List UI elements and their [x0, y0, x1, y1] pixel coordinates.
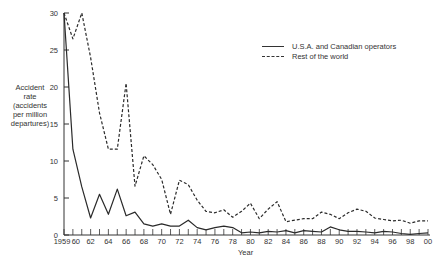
x-tick-label: 92 — [353, 237, 361, 246]
y-tick-label: 10 — [50, 157, 58, 166]
legend-item-usa-canada: U.S.A. and Canadian operators — [262, 41, 396, 51]
x-tick-label: 00 — [424, 237, 432, 246]
y-tick-label: 25 — [50, 46, 58, 55]
y-label-line: per million — [2, 110, 58, 119]
x-tick-label: 62 — [86, 237, 94, 246]
x-tick-label: 64 — [104, 237, 112, 246]
y-label-line: (accidents — [2, 101, 58, 110]
x-axis-label: Year — [238, 248, 253, 257]
legend-item-rest-of-world: Rest of the world — [262, 51, 396, 61]
x-tick-label: 72 — [175, 237, 183, 246]
x-tick-label: 68 — [140, 237, 148, 246]
x-tick-label: 78 — [229, 237, 237, 246]
x-tick-label: 76 — [211, 237, 219, 246]
line-chart: 0510152025301959606264666870727476788082… — [0, 0, 442, 266]
legend-label: Rest of the world — [292, 52, 348, 61]
x-tick-label: 70 — [157, 237, 165, 246]
y-label-line: Accident — [2, 83, 58, 92]
x-tick-label: 96 — [388, 237, 396, 246]
x-tick-label: 1959 — [54, 237, 71, 246]
y-label-line: rate — [2, 92, 58, 101]
y-axis-label: Accident rate (accidents per million dep… — [2, 83, 58, 128]
y-tick-label: 30 — [50, 9, 58, 18]
x-tick-label: 90 — [335, 237, 343, 246]
y-label-line: departures) — [2, 119, 58, 128]
x-tick-label: 86 — [300, 237, 308, 246]
x-tick-label: 80 — [246, 237, 254, 246]
x-tick-label: 94 — [371, 237, 379, 246]
solid-line-swatch-icon — [262, 46, 284, 47]
legend-label: U.S.A. and Canadian operators — [292, 42, 396, 51]
x-tick-label: 98 — [406, 237, 414, 246]
x-tick-label: 82 — [264, 237, 272, 246]
y-tick-label: 5 — [54, 194, 58, 203]
legend: U.S.A. and Canadian operators Rest of th… — [262, 41, 396, 61]
x-tick-label: 88 — [317, 237, 325, 246]
x-tick-label: 74 — [193, 237, 201, 246]
x-tick-label: 60 — [72, 237, 80, 246]
x-tick-label: 66 — [122, 237, 130, 246]
dashed-line-swatch-icon — [262, 56, 284, 57]
x-tick-label: 84 — [282, 237, 290, 246]
